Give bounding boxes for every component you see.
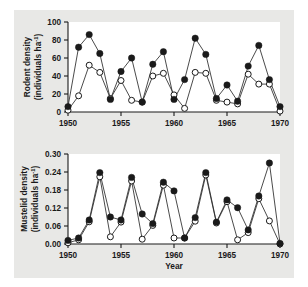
observed-data-point [224,197,230,203]
observed-data-point [245,63,251,69]
predicted-data-point [76,93,82,99]
observed-data-point [107,96,113,102]
predicted-data-point [160,70,166,76]
predicted-data-point [171,235,177,241]
x-tick-label: 1960 [165,251,184,260]
observed-data-point [234,205,240,211]
rodent-ylabel-line2: (individuals ha [33,41,43,100]
observed-data-point [97,50,103,56]
mustelid-x-ticks: 19501955196019651970 [59,244,290,260]
predicted-data-point [139,236,145,242]
observed-data-point [181,76,187,82]
observed-data-point [97,169,103,175]
x-tick-label: 1970 [271,251,290,260]
mustelid-y-ticks: 0.000.060.120.180.240.30 [45,150,68,249]
rodent-ylabel-line1: Rodent density [22,36,32,97]
observed-data-point [150,220,156,226]
y-tick-label: 100 [47,18,61,27]
svg-text:(individuals ha-1): (individuals ha-1) [33,34,43,101]
predicted-data-point [203,70,209,76]
y-tick-label: 0 [56,108,61,117]
mustelid-density-chart: 0.000.060.120.180.240.30 195019551960196… [14,142,294,278]
predicted-data-point [129,97,135,103]
rodent-chart-svg: 020406080100 19501955196019651970 Rodent… [14,10,294,138]
observed-data-point [203,51,209,57]
predicted-data-point [245,71,251,77]
predicted-data-point [182,105,188,111]
observed-data-point [192,35,198,41]
x-tick-label: 1955 [112,251,131,260]
x-tick-label: 1965 [218,251,237,260]
predicted-data-point [86,62,92,68]
observed-data-point [65,103,71,109]
predicted-data-point [266,218,272,224]
mustelid-ylabel-line1: Mustelid density [19,166,29,232]
y-tick-label: 0.06 [45,222,61,231]
observed-data-point [213,95,219,101]
observed-data-point [213,219,219,225]
predicted-data-point [192,69,198,75]
observed-data-point [86,31,92,37]
mustelid-ylabel-line2-end: ) [30,166,40,169]
observed-data-point [224,82,230,88]
observed-data-point [128,174,134,180]
observed-data-point [181,235,187,241]
observed-data-point [150,61,156,67]
mustelid-x-axis-title: Year [165,261,183,271]
predicted-data-point [256,81,262,87]
figure-container: 020406080100 19501955196019651970 Rodent… [0,0,308,287]
y-tick-label: 0.30 [45,150,61,159]
predicted-data-point [97,69,103,75]
y-tick-label: 0.24 [45,168,61,177]
observed-data-point [277,240,283,246]
rodent-ylabel-line2-end: ) [33,34,43,37]
rodent-y-axis-title: Rodent density (individuals ha-1) [22,34,43,101]
y-tick-label: 40 [52,72,62,81]
y-tick-label: 0.18 [45,186,61,195]
x-tick-label: 1970 [271,119,290,128]
rodent-density-chart: 020406080100 19501955196019651970 Rodent… [14,10,294,138]
observed-data-point [171,96,177,102]
observed-data-point [192,214,198,220]
rodent-x-ticks: 19501955196019651970 [59,112,290,128]
observed-data-point [118,217,124,223]
observed-data-point [234,98,240,104]
observed-data-point [266,76,272,82]
x-tick-label: 1950 [59,251,78,260]
svg-text:(individuals ha-1): (individuals ha-1) [30,166,40,233]
observed-data-point [75,44,81,50]
mustelid-chart-svg: 0.000.060.120.180.240.30 195019551960196… [14,142,294,278]
mustelid-ylabel-line2: (individuals ha [30,173,40,232]
observed-data-point [139,211,145,217]
x-tick-label: 1965 [218,119,237,128]
y-tick-label: 80 [52,36,62,45]
observed-data-point [256,42,262,48]
observed-data-point [75,235,81,241]
rodent-y-ticks: 020406080100 [47,18,68,117]
observed-data-point [128,55,134,61]
y-tick-label: 0.00 [45,240,61,249]
observed-data-point [171,188,177,194]
mustelid-y-axis-title: Mustelid density (individuals ha-1) [19,166,40,233]
y-tick-label: 60 [52,54,62,63]
observed-data-point [160,179,166,185]
svg-text:Mustelid density: Mustelid density [19,166,29,232]
predicted-data-point [224,99,230,105]
observed-data-point [256,193,262,199]
observed-data-point [118,68,124,74]
x-tick-label: 1955 [112,119,131,128]
observed-data-point [107,214,113,220]
predicted-data-point [235,237,241,243]
y-tick-label: 0.12 [45,204,61,213]
x-tick-label: 1950 [59,119,78,128]
observed-data-point [266,160,272,166]
x-tick-label: 1960 [165,119,184,128]
observed-data-point [277,103,283,109]
observed-data-point [245,227,251,233]
svg-text:Rodent density: Rodent density [22,36,32,97]
predicted-data-point [150,73,156,79]
observed-data-point [139,99,145,105]
y-tick-label: 20 [52,90,62,99]
observed-data-point [203,169,209,175]
observed-data-point [160,49,166,55]
